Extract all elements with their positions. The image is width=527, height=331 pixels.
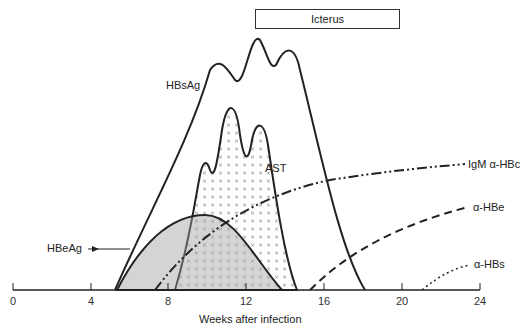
ahbe-curve [310, 207, 468, 290]
ast-label: AST [265, 162, 286, 174]
x-tick: 20 [396, 295, 408, 307]
hepatitis-b-diagram: × Icterus HBsAg AST HBeAg IgM α-HBc α-HB… [0, 0, 527, 331]
x-tick: 0 [10, 295, 16, 307]
hbsag-label: HBsAg [166, 79, 200, 91]
icterus-box: Icterus [255, 9, 400, 29]
ahbs-label: α-HBs [474, 258, 505, 270]
diagram-plot: × [0, 0, 527, 331]
x-tick: 24 [474, 295, 486, 307]
ahbs-curve [422, 265, 470, 290]
ahbe-label: α-HBe [473, 201, 504, 213]
x-tick: 4 [88, 295, 94, 307]
igm-label: IgM α-HBc [468, 158, 520, 170]
x-axis-title: Weeks after infection [199, 313, 302, 325]
hbeag-label: HBeAg [47, 242, 82, 254]
x-tick: 12 [240, 295, 252, 307]
x-tick: 8 [165, 295, 171, 307]
x-tick: 16 [318, 295, 330, 307]
